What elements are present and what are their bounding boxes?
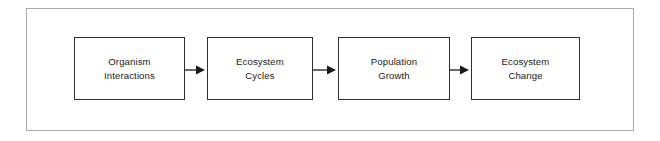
process-box-ecosystem-change[interactable]: Ecosystem Change [471,37,580,100]
arrow-right-icon-1 [185,63,207,77]
process-box-label: Population Growth [371,55,417,82]
process-box-label: Ecosystem Cycles [236,55,284,82]
process-box-ecosystem-cycles[interactable]: Ecosystem Cycles [207,37,313,100]
arrow-right-icon-3 [450,63,471,77]
flow-diagram: Organism Interactions Ecosystem Cycles P… [0,0,660,141]
process-box-population-growth[interactable]: Population Growth [338,37,450,100]
process-box-label: Organism Interactions [104,55,155,82]
process-box-label: Ecosystem Change [502,55,550,82]
process-box-organism-interactions[interactable]: Organism Interactions [74,37,185,100]
arrow-right-icon-2 [313,63,338,77]
